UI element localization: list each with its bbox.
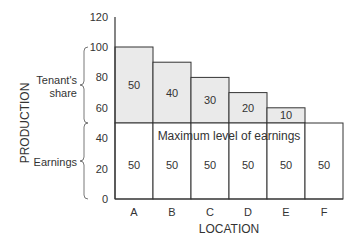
- earnings-value: 50: [242, 159, 254, 171]
- y-axis-label: PRODUCTION: [18, 83, 32, 164]
- earnings-value: 50: [204, 159, 216, 171]
- earnings-value: 50: [166, 159, 178, 171]
- x-axis: ABCDEF: [130, 206, 327, 218]
- earnings-bracket: [80, 123, 88, 199]
- x-tick-label: B: [168, 206, 175, 218]
- tenant-share-value: 20: [242, 102, 254, 114]
- tenant-share-value: 30: [204, 94, 216, 106]
- y-tick-label: 100: [90, 41, 108, 53]
- tenants-share-bracket: [80, 47, 88, 123]
- max-earnings-label: Maximum level of earnings: [158, 129, 301, 143]
- tenant-share-value: 50: [128, 79, 140, 91]
- y-tick-label: 120: [90, 11, 108, 23]
- y-tick-label: 80: [96, 71, 108, 83]
- bar-group: 1050: [267, 108, 305, 199]
- chart: 5050405030502050105050 020406080100120 A…: [0, 0, 362, 245]
- tenant-share-value: 10: [280, 109, 292, 121]
- x-tick-label: A: [130, 206, 138, 218]
- y-tick-label: 20: [96, 163, 108, 175]
- y-tick-label: 40: [96, 132, 108, 144]
- x-tick-label: D: [244, 206, 252, 218]
- earnings-value: 50: [128, 159, 140, 171]
- bar-group: 5050: [115, 47, 153, 199]
- tenants-share-label-line1: Tenant's: [36, 74, 77, 86]
- earnings-value: 50: [280, 159, 292, 171]
- earnings-value: 50: [318, 159, 330, 171]
- y-tick-label: 60: [96, 102, 108, 114]
- x-axis-label: LOCATION: [199, 222, 259, 236]
- bar-group: 50: [305, 123, 343, 199]
- bars: 5050405030502050105050: [115, 47, 343, 199]
- x-tick-label: F: [321, 206, 328, 218]
- earnings-label: Earnings: [34, 156, 78, 168]
- x-tick-label: C: [206, 206, 214, 218]
- tenant-share-value: 40: [166, 87, 178, 99]
- x-tick-label: E: [282, 206, 289, 218]
- tenants-share-label-line2: share: [49, 87, 77, 99]
- bar-group: 2050: [229, 93, 267, 199]
- y-tick-label: 0: [102, 193, 108, 205]
